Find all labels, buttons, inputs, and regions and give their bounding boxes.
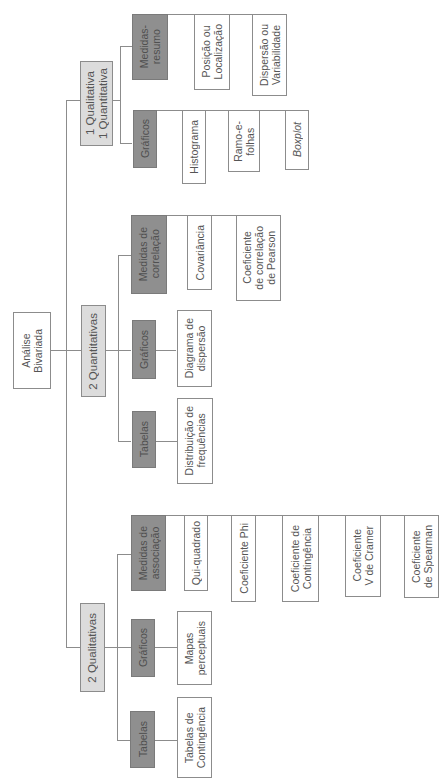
connector (156, 441, 177, 442)
branch-label: 2 Quantitativas (87, 313, 100, 390)
leaf-label: Coeficiente de correlação de Pearson (241, 226, 277, 290)
connector (66, 100, 67, 648)
connector (66, 647, 80, 648)
leaf-label: Histograma (188, 120, 200, 174)
leaf-label: Tabelas de Contingência (183, 707, 207, 768)
connector (120, 143, 132, 144)
leaf-coef-contingencia: Coeficiente de Contingência (282, 515, 319, 602)
connector (117, 740, 131, 741)
connector (117, 554, 118, 740)
root-label: Análise Bivariada (20, 329, 44, 373)
group-label: Gráficos (138, 330, 150, 369)
leaf-covariancia: Covariância (187, 215, 212, 290)
leaf-diagrama-dispersao: Diagrama de dispersão (177, 310, 212, 387)
leaf-label: Qui-quadrado (190, 521, 202, 585)
group-tabelas-2: Tabelas (132, 411, 156, 468)
group-graficos-2: Gráficos (132, 320, 156, 379)
leaf-ramo-e-folhas: Ramo-e- folhas (228, 110, 260, 172)
leaf-coef-spearman: Coeficiente de Spearman (404, 515, 439, 598)
leaf-mapas-perceptuais: Mapas perceptuais (177, 611, 212, 685)
leaf-label: Boxplot (291, 122, 303, 157)
group-graficos-3: Gráficos (131, 619, 155, 677)
leaf-histograma: Histograma (182, 110, 206, 184)
group-graficos-1: Gráficos (133, 110, 157, 168)
leaf-label: Coeficiente de Spearman (410, 525, 434, 588)
connector (120, 46, 132, 47)
leaf-coef-phi: Coeficiente Phi (231, 515, 256, 602)
branch-label: 1 Qualitativa 1 Quantitativa (84, 68, 110, 139)
branch-qual-quant: 1 Qualitativa 1 Quantitativa (80, 61, 113, 146)
leaf-boxplot: Boxplot (285, 110, 309, 170)
leaf-label: Ramo-e- folhas (232, 121, 256, 162)
leaf-label: Posição ou Localização (200, 24, 224, 79)
group-label: Medidas de associação (137, 526, 161, 580)
leaf-label: Coeficiente de Contingência (289, 525, 313, 592)
leaf-label: Diagrama de dispersão (183, 318, 207, 378)
connector (156, 110, 289, 111)
group-tabelas-3: Tabelas (130, 711, 155, 768)
connector (112, 100, 120, 101)
root-node: Análise Bivariada (13, 312, 51, 389)
leaf-label: Distribuição de frequências (183, 406, 207, 475)
branch-2-qualitativas: 2 Qualitativas (80, 603, 105, 692)
connector (120, 46, 121, 144)
group-medidas-correlacao: Medidas de correlação (131, 215, 167, 294)
leaf-label: Coeficiente Phi (238, 523, 250, 594)
leaf-label: Mapas perceptuais (183, 621, 207, 675)
leaf-distribuicao-frequencias: Distribuição de frequências (177, 398, 213, 484)
group-medidas-associacao: Medidas de associação (131, 515, 166, 591)
leaf-coef-pearson: Coeficiente de correlação de Pearson (236, 215, 281, 301)
branch-label: 2 Qualitativas (86, 613, 99, 683)
leaf-label: Coeficiente V de Cramer (351, 526, 375, 586)
leaf-label: Covariância (194, 225, 206, 280)
connector (118, 255, 119, 441)
branch-2-quantitativas: 2 Quantitativas (81, 305, 106, 397)
leaf-dispersao-variabilidade: Dispersão ou Variabilidade (252, 14, 287, 96)
leaf-posicao-localizacao: Posição ou Localização (194, 14, 230, 90)
connector (117, 554, 131, 555)
connector (118, 255, 131, 256)
group-medidas-resumo: Medidas- resumo (132, 14, 168, 80)
leaf-qui-quadrado: Qui-quadrado (184, 515, 208, 591)
leaf-label: Dispersão ou Variabilidade (258, 24, 282, 86)
group-label: Gráficos (139, 119, 151, 158)
group-label: Tabelas (137, 721, 149, 757)
connector (156, 350, 176, 351)
group-label: Medidas de correlação (137, 227, 161, 281)
group-label: Gráficos (137, 628, 149, 667)
group-label: Tabelas (138, 421, 150, 457)
connector (155, 647, 177, 648)
leaf-tabelas-contingencia: Tabelas de Contingência (177, 697, 212, 778)
connector (118, 441, 131, 442)
connector (66, 100, 80, 101)
leaf-coef-v-cramer: Coeficiente V de Cramer (345, 515, 381, 597)
group-label: Medidas- resumo (138, 25, 162, 68)
connector (155, 740, 177, 741)
